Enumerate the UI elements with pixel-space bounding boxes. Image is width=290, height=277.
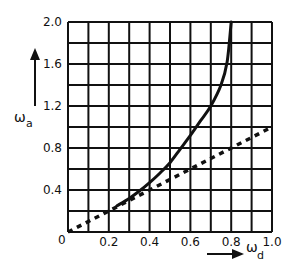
x-tick-label: 0.8 <box>222 235 241 249</box>
y-tick-label: 2.0 <box>43 15 62 29</box>
y-tick-label: 0.4 <box>43 183 62 197</box>
x-axis-subscript: d <box>257 249 264 262</box>
y-axis-label: ω a <box>14 48 40 130</box>
y-axis-arrowhead-icon <box>30 48 40 60</box>
y-tick-label: 0.8 <box>43 141 62 155</box>
chart: 0.20.40.60.81.0 0.40.81.21.62.0 0 ω a ω … <box>0 0 290 277</box>
y-tick-labels: 0.40.81.21.62.0 <box>43 15 62 197</box>
grid <box>68 22 272 232</box>
x-axis-arrowhead-icon <box>232 249 244 259</box>
x-tick-label: 0.6 <box>181 235 200 249</box>
x-tick-label: 0.4 <box>140 235 159 249</box>
y-axis-subscript: a <box>26 117 33 130</box>
x-axis-symbol: ω <box>246 239 258 255</box>
x-tick-label: 0.2 <box>99 235 118 249</box>
y-tick-label: 1.6 <box>43 57 62 71</box>
origin-label: 0 <box>58 233 66 247</box>
y-axis-symbol: ω <box>14 109 26 125</box>
solid-curve <box>117 22 231 206</box>
x-tick-label: 1.0 <box>262 235 281 249</box>
y-tick-label: 1.2 <box>43 99 62 113</box>
